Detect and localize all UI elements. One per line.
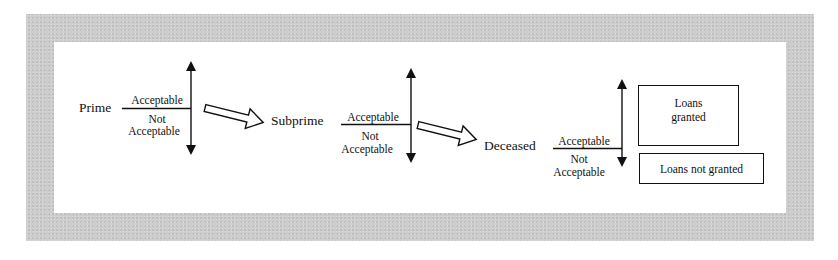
deceased-not-label: Not [547,153,611,165]
subprime-not-acceptable-label: Acceptable [335,143,399,155]
loans-granted-line2: granted [671,110,705,124]
hollow-arrow-icon [416,115,479,149]
loans-not-granted-box: Loans not granted [639,153,764,184]
prime-acceptable-label: Acceptable [125,94,189,106]
stage-subprime-label: Subprime [271,115,324,127]
loans-granted-box: Loans granted [638,85,739,146]
hollow-arrow-icon [203,98,266,132]
loans-granted-line1: Loans [671,96,705,110]
subprime-acceptable-label: Acceptable [341,111,405,123]
deceased-not-acceptable-label: Acceptable [547,166,611,178]
stage-deceased-label: Deceased [484,140,536,152]
stage-prime-label: Prime [79,102,111,114]
subprime-not-label: Not [338,130,402,142]
prime-not-label: Not [125,113,189,125]
prime-not-acceptable-label: Acceptable [122,125,186,137]
deceased-acceptable-label: Acceptable [552,135,616,147]
loans-not-granted-label: Loans not granted [660,162,743,176]
